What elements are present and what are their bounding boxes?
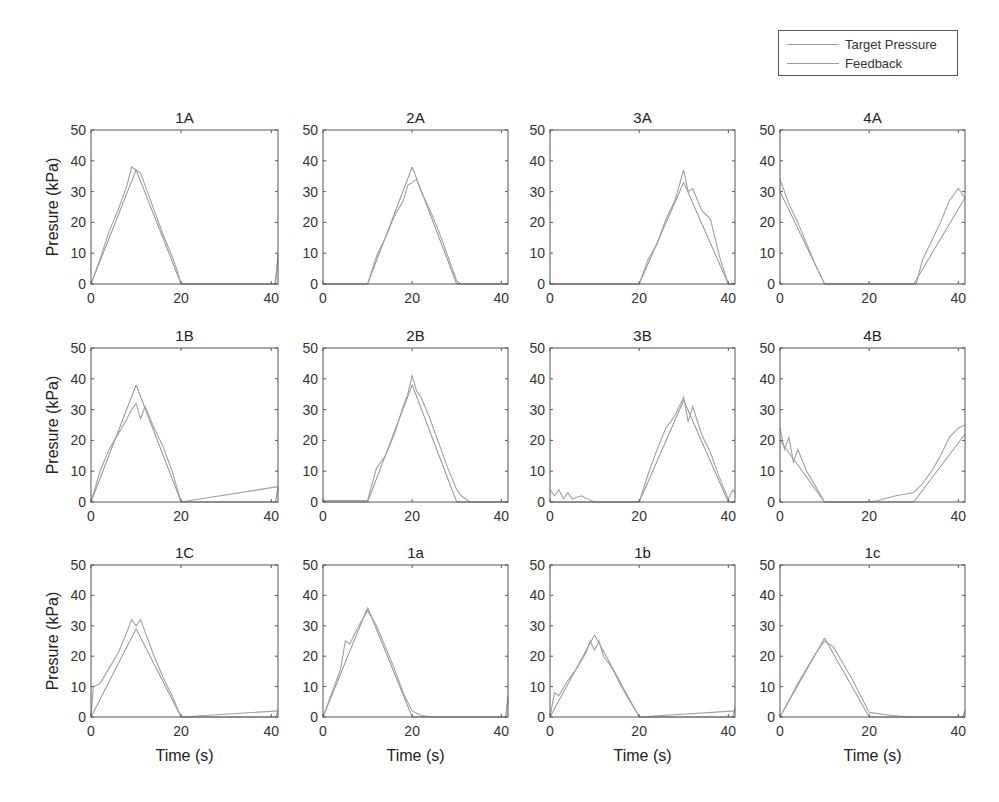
y-tick-label: 50 [759, 340, 775, 356]
legend-label: Feedback [845, 56, 902, 71]
y-tick-label: 40 [759, 153, 775, 169]
x-tick-label: 20 [631, 508, 647, 524]
series-feedback [323, 179, 508, 284]
series-target-pressure [780, 638, 965, 717]
y-tick-label: 20 [70, 214, 86, 230]
y-tick-label: 40 [302, 371, 318, 387]
y-tick-label: 50 [759, 557, 775, 573]
subplot-1a: 01020304050020401aTime (s) [302, 544, 509, 764]
y-tick-label: 50 [70, 557, 86, 573]
y-tick-label: 40 [70, 587, 86, 603]
y-tick-label: 0 [78, 494, 86, 510]
x-tick-label: 40 [494, 508, 510, 524]
y-tick-label: 0 [310, 276, 318, 292]
series-target-pressure [780, 434, 965, 502]
subplot-1b: 01020304050020401bTime (s) [529, 544, 736, 764]
x-tick-label: 0 [87, 290, 95, 306]
x-tick-label: 40 [263, 290, 279, 306]
axes-box [550, 130, 735, 284]
y-tick-label: 40 [759, 371, 775, 387]
series-target-pressure [550, 635, 735, 717]
y-tick-label: 50 [529, 557, 545, 573]
y-tick-label: 0 [767, 494, 775, 510]
y-tick-label: 30 [70, 184, 86, 200]
y-tick-label: 0 [310, 709, 318, 725]
x-tick-label: 40 [951, 290, 967, 306]
series-target-pressure [91, 629, 278, 717]
subplot-4A: 01020304050020404A [759, 109, 966, 306]
y-tick-label: 50 [302, 557, 318, 573]
y-tick-label: 0 [78, 709, 86, 725]
y-tick-label: 0 [767, 276, 775, 292]
subplot-title: 2B [406, 327, 424, 344]
x-tick-label: 40 [263, 508, 279, 524]
y-tick-label: 20 [302, 432, 318, 448]
series-feedback [780, 179, 965, 284]
subplot-2A: 01020304050020402A [302, 109, 509, 306]
subplot-1A: 01020304050020401APresure (kPa) [44, 109, 279, 306]
y-tick-label: 10 [529, 463, 545, 479]
y-axis-label: Presure (kPa) [44, 376, 61, 475]
x-tick-label: 0 [546, 290, 554, 306]
x-tick-label: 40 [721, 290, 737, 306]
y-axis-label: Presure (kPa) [44, 158, 61, 257]
x-tick-label: 20 [404, 508, 420, 524]
series-target-pressure [323, 385, 508, 502]
subplot-3A: 01020304050020403A [529, 109, 736, 306]
legend-item-feedback: Feedback [779, 54, 902, 72]
x-tick-label: 0 [319, 290, 327, 306]
x-tick-label: 0 [87, 723, 95, 739]
x-tick-label: 20 [173, 290, 189, 306]
axes-box [91, 565, 278, 717]
x-tick-label: 40 [494, 290, 510, 306]
x-tick-label: 20 [404, 723, 420, 739]
series-feedback [91, 167, 278, 284]
y-tick-label: 40 [759, 587, 775, 603]
y-tick-label: 0 [78, 276, 86, 292]
x-tick-label: 40 [951, 508, 967, 524]
y-tick-label: 0 [537, 276, 545, 292]
subplot-title: 1c [865, 544, 881, 561]
y-tick-label: 10 [70, 679, 86, 695]
y-tick-label: 10 [302, 245, 318, 261]
y-tick-label: 10 [759, 463, 775, 479]
y-tick-label: 50 [529, 340, 545, 356]
x-tick-label: 20 [173, 723, 189, 739]
subplot-title: 1a [407, 544, 424, 561]
x-axis-label: Time (s) [613, 747, 671, 764]
y-tick-label: 30 [70, 402, 86, 418]
x-tick-label: 20 [404, 290, 420, 306]
y-tick-label: 40 [70, 153, 86, 169]
x-tick-label: 0 [776, 290, 784, 306]
series-feedback [91, 403, 278, 502]
x-axis-label: Time (s) [155, 747, 213, 764]
y-tick-label: 20 [529, 648, 545, 664]
y-tick-label: 40 [302, 153, 318, 169]
x-tick-label: 40 [263, 723, 279, 739]
y-tick-label: 40 [529, 587, 545, 603]
y-tick-label: 30 [529, 402, 545, 418]
series-feedback [91, 620, 278, 717]
axes-box [323, 130, 508, 284]
y-tick-label: 50 [529, 122, 545, 138]
x-tick-label: 0 [319, 723, 327, 739]
x-tick-label: 0 [776, 508, 784, 524]
series-target-pressure [91, 170, 278, 284]
axes-box [780, 130, 965, 284]
x-tick-label: 20 [861, 508, 877, 524]
y-tick-label: 50 [759, 122, 775, 138]
axes-box [550, 348, 735, 502]
y-tick-label: 30 [302, 618, 318, 634]
subplot-1B: 01020304050020401BPresure (kPa) [44, 327, 279, 524]
series-target-pressure [91, 385, 278, 502]
series-target-pressure [323, 167, 508, 284]
axes-box [323, 348, 508, 502]
y-tick-label: 30 [529, 184, 545, 200]
y-tick-label: 10 [70, 463, 86, 479]
y-tick-label: 10 [759, 679, 775, 695]
axes-box [550, 565, 735, 717]
x-tick-label: 40 [494, 723, 510, 739]
subplot-title: 1B [175, 327, 193, 344]
x-tick-label: 0 [546, 508, 554, 524]
legend: Target Pressure Feedback [778, 30, 958, 76]
